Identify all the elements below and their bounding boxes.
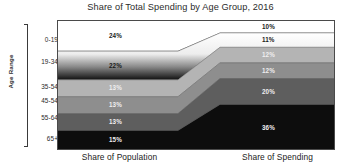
y-tick-0-19: 0-19 xyxy=(30,36,58,43)
y-tick-35-54: 35-54 xyxy=(30,83,58,90)
band-value-label: 13% xyxy=(109,118,122,125)
y-axis-line xyxy=(27,24,28,146)
y-axis-cap-top xyxy=(24,24,28,25)
band-value-label: 10% xyxy=(262,23,275,30)
band-value-label: 13% xyxy=(109,84,122,91)
band-value-label: 24% xyxy=(109,32,122,39)
y-tick-55-64: 55-64 xyxy=(30,114,58,121)
x-axis-label-population: Share of Population xyxy=(57,152,182,162)
stacked-area-bands xyxy=(57,20,335,150)
band-value-label: 22% xyxy=(109,62,122,69)
band-value-label: 12% xyxy=(262,51,275,58)
band-value-label: 12% xyxy=(262,67,275,74)
chart-container: Share of Total Spending by Age Group, 20… xyxy=(0,0,361,167)
y-tick-19-34: 19-34 xyxy=(30,58,58,65)
chart-title: Share of Total Spending by Age Group, 20… xyxy=(0,2,361,12)
y-axis-title: Age Range xyxy=(7,44,14,100)
band-value-label: 13% xyxy=(109,101,122,108)
y-axis-cap-bottom xyxy=(24,146,28,147)
band-value-label: 15% xyxy=(109,136,122,143)
band-value-label: 11% xyxy=(262,36,275,43)
x-axis-label-spending: Share of Spending xyxy=(215,152,340,162)
y-tick-65plus: 65+ xyxy=(30,135,58,142)
y-tick-45-54: 45-54 xyxy=(30,97,58,104)
band-value-label: 20% xyxy=(262,88,275,95)
band-value-label: 36% xyxy=(262,124,275,131)
plot-area: 24%10%22%11%13%12%13%12%13%20%15%36% xyxy=(57,20,335,150)
